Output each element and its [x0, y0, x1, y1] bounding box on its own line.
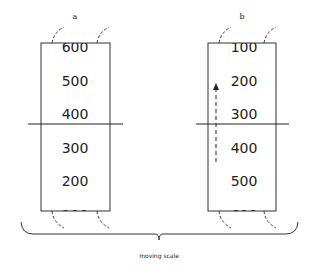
- continuation-arc-icon: [264, 211, 276, 228]
- caption: moving scale: [139, 252, 179, 260]
- scale-value: 500: [62, 73, 89, 89]
- scale-value: 100: [62, 207, 89, 223]
- scale-value: 600: [62, 39, 89, 55]
- scale-value: 400: [62, 106, 89, 122]
- continuation-arc-icon: [52, 211, 64, 228]
- scale-value: 500: [231, 173, 258, 189]
- continuation-arc-icon: [219, 27, 231, 43]
- continuation-arc-icon: [97, 27, 109, 43]
- scale-value: 300: [231, 106, 258, 122]
- panel-a: a 600 500 400 300 200 100: [28, 12, 123, 228]
- panel-b: b 100 200 300 400 500 600: [196, 12, 289, 228]
- brace-icon: [21, 222, 298, 240]
- panel-a-label: a: [73, 12, 78, 21]
- continuation-arc-icon: [52, 27, 64, 43]
- continuation-arc-icon: [219, 211, 231, 228]
- scale-value: 300: [62, 140, 89, 156]
- scale-value: 100: [231, 39, 258, 55]
- panel-b-label: b: [239, 12, 244, 21]
- continuation-arc-icon: [264, 27, 276, 43]
- scale-value: 400: [231, 140, 258, 156]
- scale-value: 600: [231, 207, 258, 223]
- scale-value: 200: [231, 73, 258, 89]
- scale-value: 200: [62, 173, 89, 189]
- continuation-arc-icon: [97, 211, 109, 228]
- up-arrow-icon: [213, 83, 219, 162]
- moving-scale-diagram: a 600 500 400 300 200 100 b 100 200 300 …: [0, 0, 316, 276]
